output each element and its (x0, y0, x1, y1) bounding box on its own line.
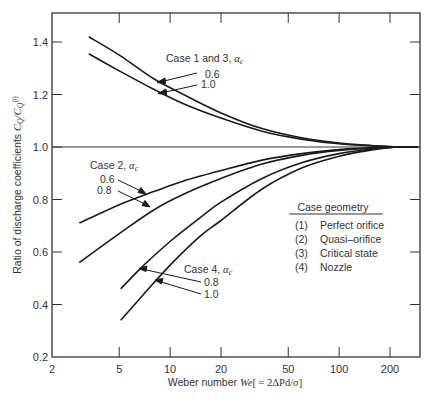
x-axis-label: Weber number We[ = 2ΔPd/σ] (168, 376, 302, 388)
annotation-case-4-value-1: 1.0 (204, 288, 219, 300)
axis-ticks: 251020501002000.20.40.60.81.01.21.4 (33, 13, 420, 375)
y-tick-label: 0.8 (33, 194, 48, 206)
x-tick-label: 100 (330, 363, 348, 375)
legend-title: Case geometry (297, 201, 369, 213)
legend-entry-number: (1) (295, 219, 308, 231)
legend-entry-label: Quasi–orifice (320, 233, 381, 245)
x-tick-label: 10 (164, 363, 176, 375)
x-tick-label: 200 (381, 363, 399, 375)
legend-entry-label: Nozzle (320, 261, 352, 273)
legend-entry-number: (3) (295, 247, 308, 259)
annotation-case-1-3-label: Case 1 and 3, αc (166, 52, 244, 66)
y-axis-label: Ratio of discharge coefficients CQ/CQ(i) (11, 96, 25, 274)
annotation-case-2-label: Case 2, αc (90, 159, 139, 173)
x-tick-label: 20 (215, 363, 227, 375)
annotation-case-2-value-1: 0.8 (97, 184, 112, 196)
x-tick-label: 2 (49, 363, 55, 375)
data-curves (79, 37, 417, 321)
y-tick-label: 0.6 (33, 246, 48, 258)
annotation-case-2: Case 2, αc 0.6 0.8 (90, 159, 150, 207)
annotation-case-1-3-value-1: 1.0 (201, 78, 216, 90)
annotation-case-4-label: Case 4, αc (184, 263, 233, 277)
y-tick-label: 1.0 (33, 141, 48, 153)
legend-entry-number: (2) (295, 233, 308, 245)
x-tick-label: 50 (282, 363, 294, 375)
y-tick-label: 1.2 (33, 89, 48, 101)
legend-entry-label: Perfect orifice (320, 219, 384, 231)
y-tick-label: 0.4 (33, 299, 48, 311)
annotation-case-4: Case 4, αc 0.8 1.0 (139, 263, 233, 300)
chart: 251020501002000.20.40.60.81.01.21.4 Case… (0, 0, 429, 400)
legend-entry-number: (4) (295, 261, 308, 273)
annotation-case-4-value-0: 0.8 (204, 276, 219, 288)
legend-entry-label: Critical state (320, 247, 378, 259)
legend: Case geometry (1)Perfect orifice(2)Quasi… (289, 201, 384, 273)
series-line (89, 37, 418, 147)
x-tick-label: 5 (116, 363, 122, 375)
series-line (121, 147, 418, 289)
y-tick-label: 0.2 (33, 351, 48, 363)
y-tick-label: 1.4 (33, 36, 48, 48)
